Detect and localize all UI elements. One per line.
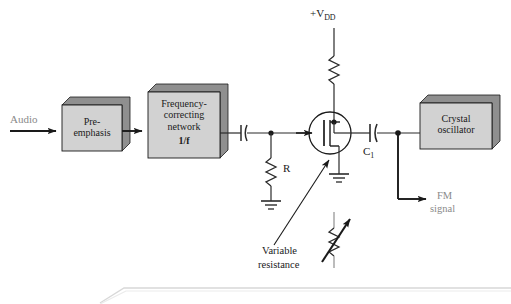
- capacitor-c1-subscript: 1: [370, 151, 374, 160]
- capacitor-coupling-input: [241, 125, 247, 141]
- capacitor-c1: [351, 124, 420, 142]
- footer-decorative-rule: [100, 288, 511, 304]
- variable-resistor-callout: [322, 212, 350, 268]
- fm-modulator-diagram: Pre- emphasis Frequency- correcting netw…: [0, 0, 511, 304]
- block-label-frequency-correcting-network: Frequency- correcting network: [148, 98, 220, 132]
- variable-resistance-label-line2: resistance: [258, 259, 299, 270]
- resistor-r-label: R: [283, 163, 290, 175]
- wire-network-to-gate: [220, 125, 312, 141]
- circuit-canvas: [0, 0, 511, 304]
- supply-vdd-label: +VDD: [310, 8, 336, 22]
- capacitor-c1-label: C1: [363, 146, 374, 160]
- variable-resistance-label-line1: Variable: [262, 245, 297, 256]
- resistor-r: [266, 133, 276, 201]
- fm-signal-label-line2: signal: [430, 203, 455, 214]
- resistor-vdd: [329, 56, 339, 115]
- fm-signal-label-line1: FM: [437, 190, 452, 201]
- ground-resistor-r: [261, 201, 281, 209]
- ground-source: [329, 160, 349, 182]
- supply-vdd-prefix: +V: [310, 7, 324, 19]
- audio-input-label: Audio: [10, 114, 38, 126]
- block-label-crystal-oscillator: Crystal oscillator: [420, 113, 492, 136]
- block-label-network-ratio: 1/f: [148, 135, 220, 146]
- block-label-pre-emphasis: Pre- emphasis: [62, 116, 122, 139]
- transistor-fet: [309, 112, 351, 160]
- supply-vdd-subscript: DD: [324, 13, 335, 22]
